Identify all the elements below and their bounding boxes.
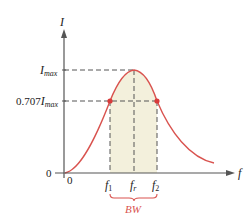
f1-label: f1 [105,178,112,193]
fr-label: fr [130,178,137,193]
resonance-diagram: I f 0 0 Imax 0.707Imax f1 fr f2 BW [0,0,245,222]
f1-half-power-point [107,98,112,103]
bandwidth-label: BW [125,203,142,215]
y-axis-arrow-icon [61,29,67,38]
x-axis-arrow-icon [226,170,235,176]
y-origin-label: 0 [46,167,52,179]
half-power-label: 0.707Imax [16,94,59,109]
imax-label: Imax [39,63,58,78]
bandwidth-brace [110,194,157,201]
x-origin-label: 0 [67,174,73,186]
f2-half-power-point [154,98,159,103]
f2-label: f2 [152,178,159,193]
y-axis-label: I [59,15,65,29]
x-axis-label: f [238,166,243,180]
